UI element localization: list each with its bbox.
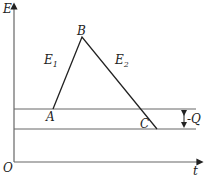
x-axis-label: t xyxy=(193,164,198,178)
q-label: -Q xyxy=(187,112,201,126)
point-a-label: A xyxy=(45,110,55,124)
e1-label: E1 xyxy=(43,53,58,69)
y-axis-label: E xyxy=(2,2,12,16)
energy-diagram: E t O A B C E1 E2 -Q xyxy=(0,0,206,182)
origin-label: O xyxy=(3,161,13,175)
e2-label: E2 xyxy=(114,53,129,69)
point-c-label: C xyxy=(140,117,149,131)
point-b-label: B xyxy=(76,24,86,38)
energy-path xyxy=(53,37,157,129)
